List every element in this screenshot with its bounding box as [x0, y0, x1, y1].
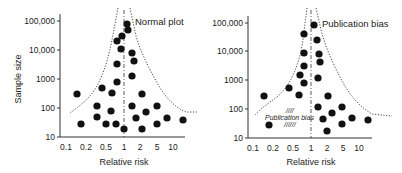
x-tick-label: 0.1 [60, 142, 72, 152]
study-point [313, 36, 320, 43]
study-point [128, 72, 135, 79]
y-tick-label: 100,000 [24, 16, 55, 26]
study-point [179, 116, 186, 123]
left-plot: 100,00010,000100010010 0.10.20.512510 No… [13, 8, 198, 167]
x-tick-label: 2 [138, 142, 143, 152]
x-tick-label: 0.5 [287, 143, 299, 153]
study-point [328, 109, 335, 116]
right-funnel-left-boundary [254, 8, 307, 116]
study-point [77, 120, 84, 127]
study-point [138, 125, 145, 132]
study-point [128, 102, 135, 109]
left-x-axis-title: Relative risk [99, 157, 149, 167]
study-point [300, 49, 307, 56]
left-plot-title: Normal plot [135, 16, 184, 27]
study-point [315, 50, 322, 57]
study-point [338, 120, 345, 127]
study-point [93, 113, 100, 120]
study-point [128, 49, 135, 56]
y-tick-label: 100 [41, 103, 55, 113]
study-point [310, 21, 317, 28]
study-point [314, 103, 321, 110]
right-x-axis-title: Relative risk [286, 157, 336, 167]
right-plot-title: Publication bias [322, 18, 389, 29]
study-point [260, 92, 267, 99]
study-point [338, 103, 345, 110]
study-point [296, 71, 303, 78]
study-point [295, 91, 302, 98]
y-tick-label: 100,000 [212, 18, 243, 28]
hatch-bottom: ////// [283, 121, 297, 128]
study-point [102, 120, 109, 127]
hatch-top: //// [285, 107, 295, 114]
left-y-axis-title: Sample size [13, 54, 23, 103]
study-point [319, 115, 326, 122]
study-point [112, 120, 119, 127]
study-point [153, 102, 160, 109]
x-tick-label: 1 [122, 142, 127, 152]
y-tick-label: 10,000 [217, 46, 243, 56]
y-tick-label: 1000 [36, 74, 55, 84]
study-point [113, 37, 120, 44]
study-point [132, 114, 139, 121]
x-tick-label: 2 [325, 143, 330, 153]
study-point [93, 102, 100, 109]
study-point [316, 58, 323, 65]
y-tick-label: 10 [234, 133, 244, 143]
study-point [123, 20, 130, 27]
study-point [300, 79, 307, 86]
study-point [142, 108, 149, 115]
study-point [314, 74, 321, 81]
study-point [300, 62, 307, 69]
x-tick-label: 0.2 [267, 143, 279, 153]
study-point [130, 57, 137, 64]
x-tick-label: 0.5 [100, 142, 112, 152]
study-point [113, 78, 120, 85]
study-point [300, 30, 307, 37]
right-plot: 100,00010,000100010010 0.10.20.512510 Pu… [212, 8, 392, 167]
study-point [113, 60, 120, 67]
study-point [117, 45, 124, 52]
study-point [120, 125, 127, 132]
x-tick-label: 10 [168, 142, 178, 152]
x-tick-label: 10 [354, 143, 364, 153]
study-point [73, 90, 80, 97]
x-tick-label: 5 [155, 142, 160, 152]
y-tick-label: 10,000 [29, 45, 55, 55]
study-point [138, 90, 145, 97]
study-point [124, 26, 131, 33]
study-point [98, 84, 105, 91]
study-point [163, 114, 170, 121]
x-tick-label: 5 [341, 143, 346, 153]
study-point [348, 114, 355, 121]
y-tick-label: 100 [229, 104, 243, 114]
x-tick-label: 1 [309, 143, 314, 153]
x-tick-label: 0.2 [80, 142, 92, 152]
y-tick-label: 1000 [224, 75, 243, 85]
study-point [323, 127, 330, 134]
funnel-plots-figure: 100,00010,000100010010 0.10.20.512510 No… [0, 0, 402, 173]
study-point [285, 84, 292, 91]
y-tick-label: 10 [46, 132, 56, 142]
study-point [324, 92, 331, 99]
study-point [107, 107, 114, 114]
x-tick-label: 0.1 [247, 143, 259, 153]
study-point [364, 116, 371, 123]
publication-bias-label: Publication bias [265, 114, 315, 121]
study-point [265, 121, 272, 128]
study-point [153, 120, 160, 127]
study-point [108, 89, 115, 96]
